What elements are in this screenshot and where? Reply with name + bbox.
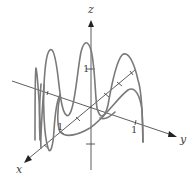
z-tick-label: 1 bbox=[83, 64, 89, 74]
plot-canvas bbox=[0, 0, 193, 180]
space-curve-diagram: z y x 1 1 1 bbox=[0, 0, 193, 180]
x-axis-label: x bbox=[16, 164, 22, 175]
z-axis-label: z bbox=[88, 4, 94, 15]
y-arrow-icon bbox=[168, 131, 177, 137]
y-tick-label: 1 bbox=[131, 125, 137, 135]
space-curve bbox=[35, 43, 143, 151]
z-arrow-icon bbox=[88, 20, 94, 27]
x-tick-label: 1 bbox=[57, 122, 63, 132]
y-axis-label: y bbox=[180, 134, 186, 145]
